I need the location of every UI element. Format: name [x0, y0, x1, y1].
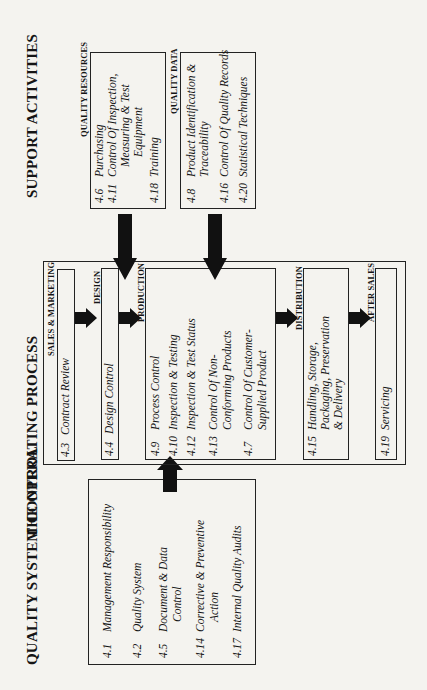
after-sales-box: 4.19 Servicing — [375, 268, 397, 460]
sales-marketing-box: 4.3 Contract Review — [57, 269, 75, 461]
production-box: 4.9 Process Control 4.10 Inspection & Te… — [145, 268, 276, 460]
support-activities-title: SUPPORT ACTIVITIES — [24, 34, 41, 198]
quality-resources-caption: QUALITY RESOURCES — [79, 42, 89, 137]
sales-marketing-caption: SALES & MARKETING — [46, 262, 56, 356]
design-box: 4.4 Design Control — [101, 268, 119, 460]
distribution-box: 4.15 Handling, Storage, Packaging, Prese… — [303, 268, 349, 460]
quality-resources-box: 4.6 Purchasing 4.11 Control Of Inspectio… — [90, 52, 166, 209]
operating-process-title: THE OPERATING PROCESS — [24, 336, 41, 538]
quality-data-box: 4.8 Product Identification & Traceabilit… — [180, 52, 256, 209]
arrow-sales-to-design-icon — [75, 308, 97, 328]
operating-process-frame: SALES & MARKETING 4.3 Contract Review DE… — [43, 261, 406, 465]
quality-data-caption: QUALITY DATA — [169, 48, 179, 114]
quality-system-control-box: 4.1 Management Responsibility 4.2 Qualit… — [88, 479, 256, 665]
arrow-quality-resources-to-operating-icon — [113, 214, 137, 280]
arrow-quality-data-to-operating-icon — [203, 214, 227, 280]
iso9001-diagram: QUALITY SYSTEM CONTROL THE OPERATING PRO… — [0, 0, 427, 690]
